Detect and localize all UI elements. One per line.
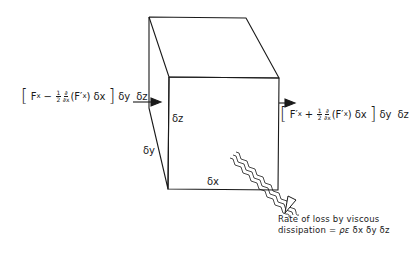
close-bracket: ] (370, 106, 377, 123)
right-flux-formula: [ F′x + 12 ∂∂x (F′x) δx ] δy δz (280, 106, 409, 123)
partial-derivative: ∂∂x (324, 108, 331, 121)
dim-label-dz: δz (172, 114, 183, 124)
half-fraction: 12 (317, 108, 322, 121)
caption-line-1: Rate of loss by viscous (278, 214, 390, 225)
half-fraction: 12 (56, 90, 61, 103)
open-bracket: [ (280, 106, 287, 123)
plus-sign: + (305, 110, 313, 120)
left-flux-formula: [ Fx − 12 ∂∂x (F′x) δx ] δy δz (21, 88, 148, 105)
caption-line-2: dissipation = ρε δx δy δz (278, 225, 390, 236)
partial-derivative: ∂∂x (63, 90, 70, 103)
dissipation-arrowhead (285, 196, 296, 213)
dim-label-dx: δx (207, 177, 219, 187)
cube-top-face (149, 17, 279, 78)
flux-term: F′ (290, 110, 298, 120)
dissipation-caption: Rate of loss by viscous dissipation = ρε… (278, 214, 390, 236)
cube-front-face (168, 77, 279, 190)
open-bracket: [ (21, 88, 28, 105)
minus-sign: − (44, 92, 52, 102)
close-bracket: ] (108, 88, 115, 105)
dim-label-dy: δy (143, 146, 155, 156)
